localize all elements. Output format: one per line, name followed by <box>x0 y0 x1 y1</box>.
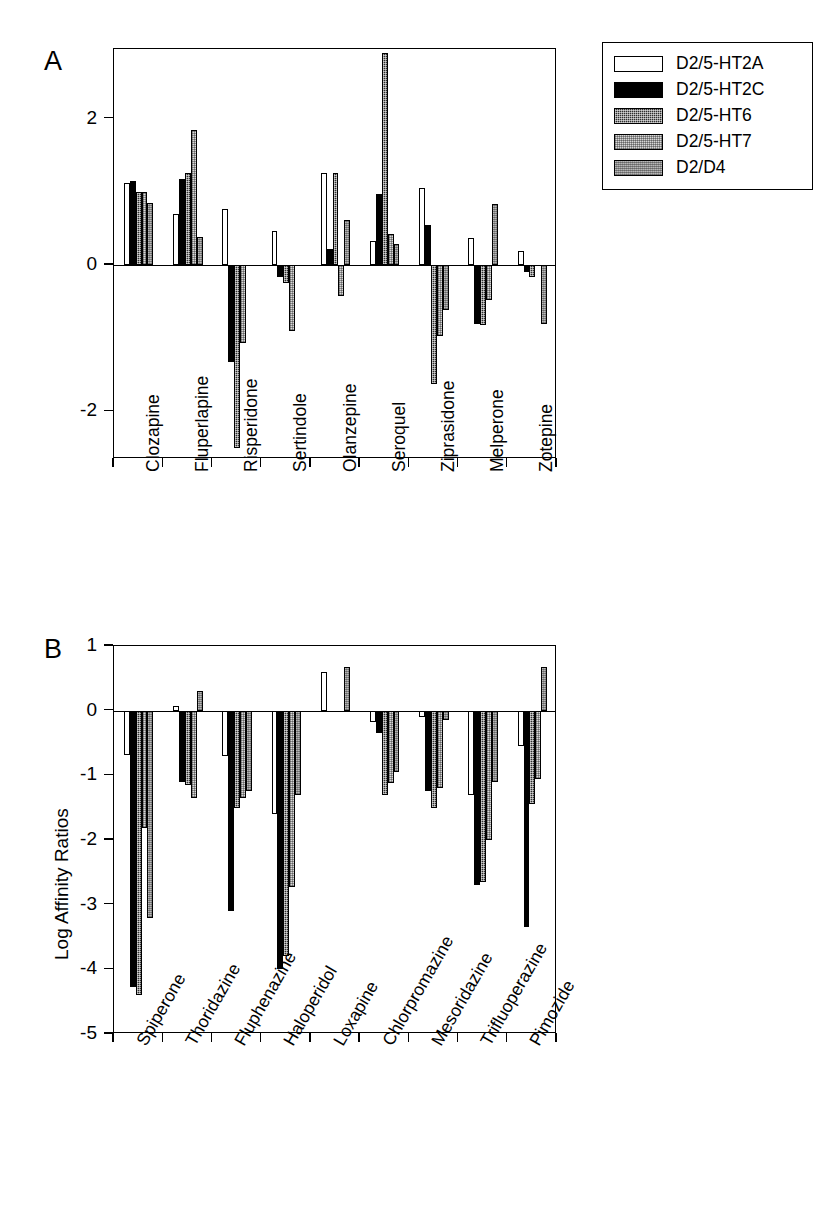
bar <box>443 265 449 310</box>
legend-swatch <box>614 134 663 150</box>
legend-label: D2/D4 <box>676 159 726 177</box>
y-axis-tick-label: 2 <box>55 108 97 127</box>
bar <box>147 203 153 265</box>
legend-swatch <box>614 108 663 124</box>
legend-swatch <box>614 56 663 72</box>
y-axis-tick-label: 0 <box>55 700 97 719</box>
bar <box>394 244 400 265</box>
bar <box>191 711 197 798</box>
legend-item: D2/5-HT6 <box>614 107 752 124</box>
x-axis-tick <box>358 1033 359 1042</box>
x-axis-tick <box>506 1033 507 1042</box>
bar <box>443 711 449 721</box>
y-axis-tick <box>104 774 113 775</box>
bar-group <box>370 646 400 1032</box>
y-axis-tick-label: -2 <box>55 829 97 848</box>
y-axis-tick <box>104 644 113 645</box>
bar <box>492 204 498 265</box>
legend-label: D2/5-HT2C <box>676 81 765 99</box>
bar <box>437 711 443 789</box>
y-axis-tick <box>104 117 113 118</box>
y-axis-tick <box>104 838 113 839</box>
bar-group <box>370 49 400 457</box>
x-axis-category-label: Zotepine <box>538 404 556 472</box>
bar <box>240 265 246 343</box>
bar <box>535 711 541 779</box>
x-axis-tick <box>162 1033 163 1042</box>
y-axis-tick <box>104 410 113 411</box>
legend-item: D2/5-HT2C <box>614 81 765 98</box>
bar <box>425 225 431 265</box>
bar <box>492 711 498 782</box>
x-axis-tick <box>211 1033 212 1042</box>
x-axis-category-label: Fluperlapine <box>194 376 212 472</box>
legend: D2/5-HT2AD2/5-HT2CD2/5-HT6D2/5-HT7D2/D4 <box>602 42 813 190</box>
legend-item: D2/5-HT7 <box>614 133 752 150</box>
x-axis-tick <box>112 458 113 467</box>
x-axis-category-label: Olanzepine <box>342 383 360 472</box>
y-axis-tick-label: -3 <box>55 894 97 913</box>
x-axis-tick <box>408 1033 409 1042</box>
x-axis-category-label: Seroquel <box>391 402 409 472</box>
bar <box>529 265 535 277</box>
x-axis-category-label: Risperidone <box>243 379 261 472</box>
bar <box>333 173 339 265</box>
legend-item: D2/5-HT2A <box>614 55 764 72</box>
bar <box>468 238 474 265</box>
x-axis-category-label: Sertindole <box>292 393 310 472</box>
x-axis-category-label: Melperone <box>489 389 507 472</box>
legend-item: D2/D4 <box>614 159 726 176</box>
legend-label: D2/5-HT7 <box>676 133 752 151</box>
legend-swatch <box>614 160 663 176</box>
x-axis-tick <box>260 1033 261 1042</box>
bar <box>541 265 547 324</box>
legend-label: D2/5-HT2A <box>676 55 764 73</box>
legend-label: D2/5-HT6 <box>676 107 752 125</box>
bar <box>344 667 350 710</box>
y-axis-tick-label: -4 <box>55 958 97 977</box>
bar <box>147 711 153 918</box>
x-axis-tick <box>112 1033 113 1042</box>
legend-swatch <box>614 82 663 98</box>
panel-a-letter: A <box>44 48 62 75</box>
bar <box>518 251 524 265</box>
y-axis-tick-label: 0 <box>55 254 97 273</box>
bar <box>197 237 203 265</box>
bar <box>338 265 344 296</box>
bar <box>272 231 278 265</box>
bar <box>344 220 350 265</box>
y-axis-tick <box>104 709 113 710</box>
y-axis-tick-label: -5 <box>55 1023 97 1042</box>
bar <box>541 667 547 711</box>
bar <box>295 711 301 795</box>
bar <box>394 711 400 772</box>
bar <box>222 209 228 265</box>
bar-group <box>124 646 154 1032</box>
y-axis-tick-label: 1 <box>55 635 97 654</box>
y-axis-tick-label: -2 <box>55 400 97 419</box>
x-axis-tick <box>309 1033 310 1042</box>
y-axis-tick <box>104 903 113 904</box>
y-axis-tick <box>104 968 113 969</box>
x-axis-category-label: Clozapine <box>145 394 163 472</box>
bar-group <box>518 49 548 457</box>
bar <box>321 672 327 711</box>
y-axis-tick-label: -1 <box>55 764 97 783</box>
x-axis-tick <box>555 1033 556 1042</box>
bar <box>246 711 252 792</box>
bar <box>486 265 492 300</box>
y-axis-tick <box>104 263 113 264</box>
x-axis-tick <box>457 1033 458 1042</box>
bar <box>289 265 295 331</box>
x-axis-category-label: Ziprasidone <box>440 381 458 472</box>
bar <box>197 691 203 710</box>
